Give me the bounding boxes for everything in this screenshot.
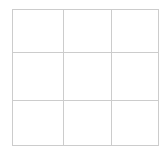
grid-row-3 — [13, 101, 159, 146]
canvas — [0, 0, 165, 150]
cell-r1c1[interactable] — [13, 10, 64, 53]
cell-r2c3[interactable] — [112, 53, 159, 101]
grid-row-1 — [13, 10, 159, 53]
cell-r3c2[interactable] — [64, 101, 112, 146]
cell-r1c3[interactable] — [112, 10, 159, 53]
cell-r3c1[interactable] — [13, 101, 64, 146]
cell-r1c2[interactable] — [64, 10, 112, 53]
cell-r2c1[interactable] — [13, 53, 64, 101]
grid-row-2 — [13, 53, 159, 101]
cell-r2c2[interactable] — [64, 53, 112, 101]
grid-table — [12, 9, 159, 146]
cell-r3c3[interactable] — [112, 101, 159, 146]
grid-body — [13, 10, 159, 146]
